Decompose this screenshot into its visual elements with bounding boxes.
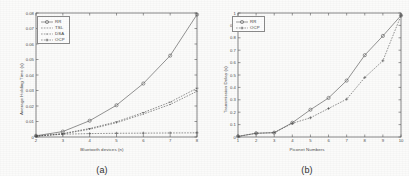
x-tick-label: 7 — [169, 138, 172, 143]
panel-caption-a: (a) — [0, 165, 204, 175]
series-ocp — [237, 14, 403, 138]
y-tick-label: 0.02 — [26, 104, 35, 109]
y-tick-label: 0.4 — [230, 85, 236, 90]
y-tick-label: 0.5 — [230, 73, 236, 78]
x-tick-label: 5 — [115, 138, 118, 143]
series-tsl — [35, 88, 199, 136]
x-tick-label: 4 — [291, 138, 294, 143]
x-tick-label: 8 — [196, 138, 199, 143]
x-axis-title-a: Bluetooth devices (n) — [0, 147, 204, 152]
x-tick-label: 2 — [255, 138, 258, 143]
legend-marker-line-icon — [40, 25, 55, 31]
panel-b: 1234567891000.10.20.30.40.50.60.70.80.91… — [205, 0, 409, 176]
y-tick-label: 0.6 — [230, 60, 236, 65]
y-tick-label: 0.03 — [26, 88, 35, 93]
x-tick-label: 3 — [273, 138, 276, 143]
x-tick-label: 10 — [399, 138, 404, 143]
y-tick-label: 0.01 — [26, 119, 35, 124]
y-axis-title-b: Transmission Delay (s) — [223, 66, 228, 113]
x-tick-label: 3 — [62, 138, 65, 143]
x-tick-label: 2 — [35, 138, 38, 143]
legend-marker-plus-icon — [40, 37, 55, 43]
y-tick-label: 0.07 — [26, 26, 35, 31]
legend-item-dsa[interactable]: DSA — [40, 31, 67, 37]
x-tick-label: 4 — [88, 138, 91, 143]
y-tick-label: 0.7 — [230, 48, 236, 53]
figure-container: 234567800.010.020.030.040.050.060.070.08… — [0, 0, 409, 176]
legend-label: TSL — [55, 25, 63, 31]
x-tick-label: 8 — [364, 138, 367, 143]
x-tick-label: 6 — [327, 138, 330, 143]
y-tick-label: 1 — [233, 11, 236, 16]
legend-label: RR — [55, 19, 61, 25]
panel-caption-b: (b) — [205, 165, 409, 175]
x-tick-label: 7 — [345, 138, 348, 143]
legend-item-tsl[interactable]: TSL — [40, 25, 67, 31]
y-tick-label: 0.3 — [230, 97, 236, 102]
legend-item-ocp[interactable]: OCP — [235, 25, 262, 31]
legend-label: OCP — [55, 37, 65, 43]
x-axis-title-b: Piconet Numbers — [205, 147, 409, 152]
y-tick-label: 0.8 — [230, 35, 236, 40]
y-axis-title-a: Average Holding Time (s) — [19, 63, 24, 115]
legend-marker-circle-icon — [40, 19, 55, 25]
legend-label: OCP — [250, 25, 260, 31]
y-tick-label: 0.04 — [26, 73, 35, 78]
x-tick-label: 1 — [237, 138, 240, 143]
legend-item-ocp[interactable]: OCP — [40, 37, 67, 43]
series-dsa — [36, 91, 198, 137]
legend-marker-plus-icon — [235, 25, 250, 31]
legend-a[interactable]: RRTSLDSAOCP — [37, 16, 70, 44]
panel-a: 234567800.010.020.030.040.050.060.070.08… — [0, 0, 204, 176]
x-tick-label: 9 — [382, 138, 385, 143]
y-tick-label: 0.06 — [26, 42, 35, 47]
y-tick-label: 0.08 — [26, 11, 35, 16]
x-tick-label: 6 — [142, 138, 145, 143]
y-tick-label: 0.2 — [230, 110, 236, 115]
y-tick-label: 0.05 — [26, 57, 35, 62]
legend-marker-dot-icon — [40, 31, 55, 37]
legend-label: RR — [250, 19, 256, 25]
y-tick-label: 0.1 — [230, 122, 236, 127]
series-rr — [236, 14, 402, 138]
legend-marker-circle-icon — [235, 19, 250, 25]
legend-label: DSA — [55, 31, 64, 37]
x-tick-label: 5 — [309, 138, 312, 143]
legend-b[interactable]: RROCP — [232, 16, 265, 32]
